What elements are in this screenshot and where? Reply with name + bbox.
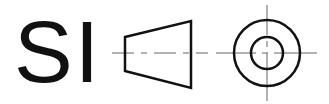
projection-symbol-drawing	[0, 0, 329, 104]
circle-view	[216, 5, 317, 101]
truncated-cone-side-view	[125, 21, 191, 88]
trapezoid-view	[112, 21, 208, 88]
